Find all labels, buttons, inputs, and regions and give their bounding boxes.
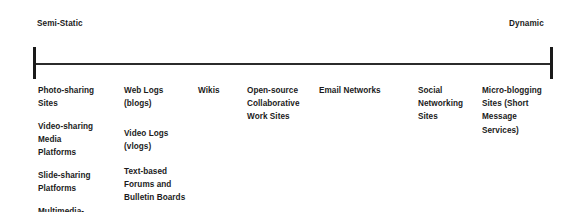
category-item: Video-sharingMediaPlatforms xyxy=(38,120,93,160)
category-item: Email Networks xyxy=(319,84,381,97)
category-item-line: Platforms xyxy=(38,182,91,195)
category-item-line: Sites xyxy=(418,110,463,123)
category-item: Multimedia-sharing xyxy=(38,205,84,212)
category-item-line: Video-sharing xyxy=(38,120,93,133)
category-item-line: Sites (Short xyxy=(482,97,542,110)
category-item-line: Networking xyxy=(418,97,463,110)
axis-label-dynamic: Dynamic xyxy=(509,19,544,28)
category-item-line: Sites xyxy=(38,97,94,110)
category-item: SocialNetworkingSites xyxy=(418,84,463,124)
axis-endpoint-right-tick xyxy=(550,47,553,79)
category-item: Slide-sharingPlatforms xyxy=(38,169,91,195)
category-item: Photo-sharingSites xyxy=(38,84,94,110)
category-item-line: Media xyxy=(38,133,93,146)
category-item-line: Collaborative xyxy=(247,97,300,110)
axis-label-semi-static: Semi-Static xyxy=(37,19,83,28)
category-item-line: Web Logs xyxy=(124,84,163,97)
category-item-line: Slide-sharing xyxy=(38,169,91,182)
continuum-axis-line xyxy=(34,63,552,65)
category-item: Text-basedForums andBulletin Boards xyxy=(124,165,185,205)
category-item-line: Photo-sharing xyxy=(38,84,94,97)
category-item-line: Text-based xyxy=(124,165,185,178)
category-item: Micro-bloggingSites (ShortMessageService… xyxy=(482,84,542,137)
category-item: Web Logs(blogs) xyxy=(124,84,163,110)
category-item-line: Social xyxy=(418,84,463,97)
axis-endpoint-left-tick xyxy=(33,47,36,79)
category-item: Video Logs(vlogs) xyxy=(124,127,168,153)
category-item-line: (blogs) xyxy=(124,97,163,110)
category-item-line: Micro-blogging xyxy=(482,84,542,97)
category-item-line: Platforms xyxy=(38,146,93,159)
social-media-continuum-diagram: Semi-Static Dynamic Photo-sharingSitesVi… xyxy=(0,0,574,212)
category-item-line: Work Sites xyxy=(247,110,300,123)
category-item-line: Email Networks xyxy=(319,84,381,97)
category-item: Open-sourceCollaborativeWork Sites xyxy=(247,84,300,124)
category-item: Wikis xyxy=(198,84,220,97)
category-item-line: Services) xyxy=(482,124,542,137)
category-item-line: Video Logs xyxy=(124,127,168,140)
category-item-line: (vlogs) xyxy=(124,140,168,153)
category-item-line: Forums and xyxy=(124,178,185,191)
category-item-line: Wikis xyxy=(198,84,220,97)
category-item-line: Open-source xyxy=(247,84,300,97)
category-item-line: Multimedia- xyxy=(38,205,84,212)
category-item-line: Message xyxy=(482,110,542,123)
category-item-line: Bulletin Boards xyxy=(124,191,185,204)
